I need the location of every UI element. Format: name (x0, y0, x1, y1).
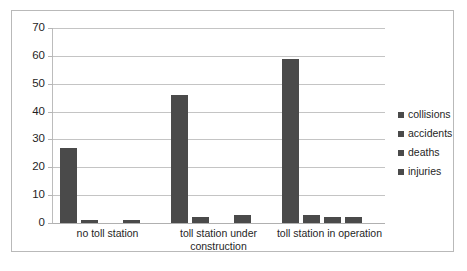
chart-legend: collisionsaccidentsdeathsinjuries (398, 109, 467, 185)
legend-item-label: accidents (408, 128, 452, 139)
bar (81, 220, 98, 223)
bar (324, 217, 341, 223)
y-axis-tick-label: 50 (19, 78, 45, 89)
y-axis-tick-label: 10 (19, 189, 45, 200)
legend-swatch-icon (398, 150, 404, 156)
y-axis-tick-label: 20 (19, 161, 45, 172)
bar-group (60, 28, 140, 223)
x-axis-category-label: toll station in operation (262, 227, 397, 240)
x-axis-labels: no toll stationtoll station underconstru… (52, 227, 385, 261)
legend-item-label: injuries (408, 166, 441, 177)
bar (171, 95, 188, 223)
y-tick-30 (48, 139, 53, 140)
legend-swatch-icon (398, 131, 404, 137)
y-tick-60 (48, 56, 53, 57)
legend-item-accidents[interactable]: accidents (398, 128, 467, 139)
bar (192, 217, 209, 223)
bar (234, 215, 251, 223)
bar (60, 148, 77, 223)
y-tick-10 (48, 195, 53, 196)
bar (123, 220, 140, 223)
legend-item-label: deaths (408, 147, 440, 158)
y-axis-tick-label: 40 (19, 106, 45, 117)
y-tick-0 (48, 223, 53, 224)
y-tick-40 (48, 112, 53, 113)
plot-area (52, 28, 385, 223)
y-axis-tick-label: 30 (19, 133, 45, 144)
y-tick-50 (48, 84, 53, 85)
y-axis-tick-label: 70 (19, 22, 45, 33)
legend-item-collisions[interactable]: collisions (398, 109, 467, 120)
y-axis-labels: 010203040506070 (12, 11, 45, 241)
gridline-0 (52, 223, 385, 224)
legend-item-injuries[interactable]: injuries (398, 166, 467, 177)
bar (303, 215, 320, 223)
legend-swatch-icon (398, 112, 404, 118)
bar (282, 59, 299, 223)
y-tick-70 (48, 28, 53, 29)
legend-item-label: collisions (408, 109, 451, 120)
legend-item-deaths[interactable]: deaths (398, 147, 467, 158)
bar-group (171, 28, 251, 223)
bar (345, 217, 362, 223)
y-axis-tick-label: 60 (19, 50, 45, 61)
chart-frame: 010203040506070 no toll stationtoll stat… (11, 10, 454, 252)
bar-group (282, 28, 362, 223)
legend-swatch-icon (398, 169, 404, 175)
y-tick-20 (48, 167, 53, 168)
